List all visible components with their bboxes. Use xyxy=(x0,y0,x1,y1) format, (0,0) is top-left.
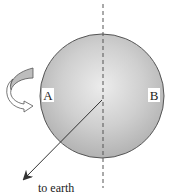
diagram-canvas: A B to earth xyxy=(0,0,176,196)
to-earth-label: to earth xyxy=(38,181,74,195)
point-a-text: A xyxy=(43,88,53,103)
planet-sphere xyxy=(40,34,164,158)
point-a-label: A xyxy=(42,88,54,103)
point-b-label: B xyxy=(148,88,160,103)
point-b-text: B xyxy=(150,88,159,103)
curved-rotation-arrow-icon xyxy=(7,68,33,112)
